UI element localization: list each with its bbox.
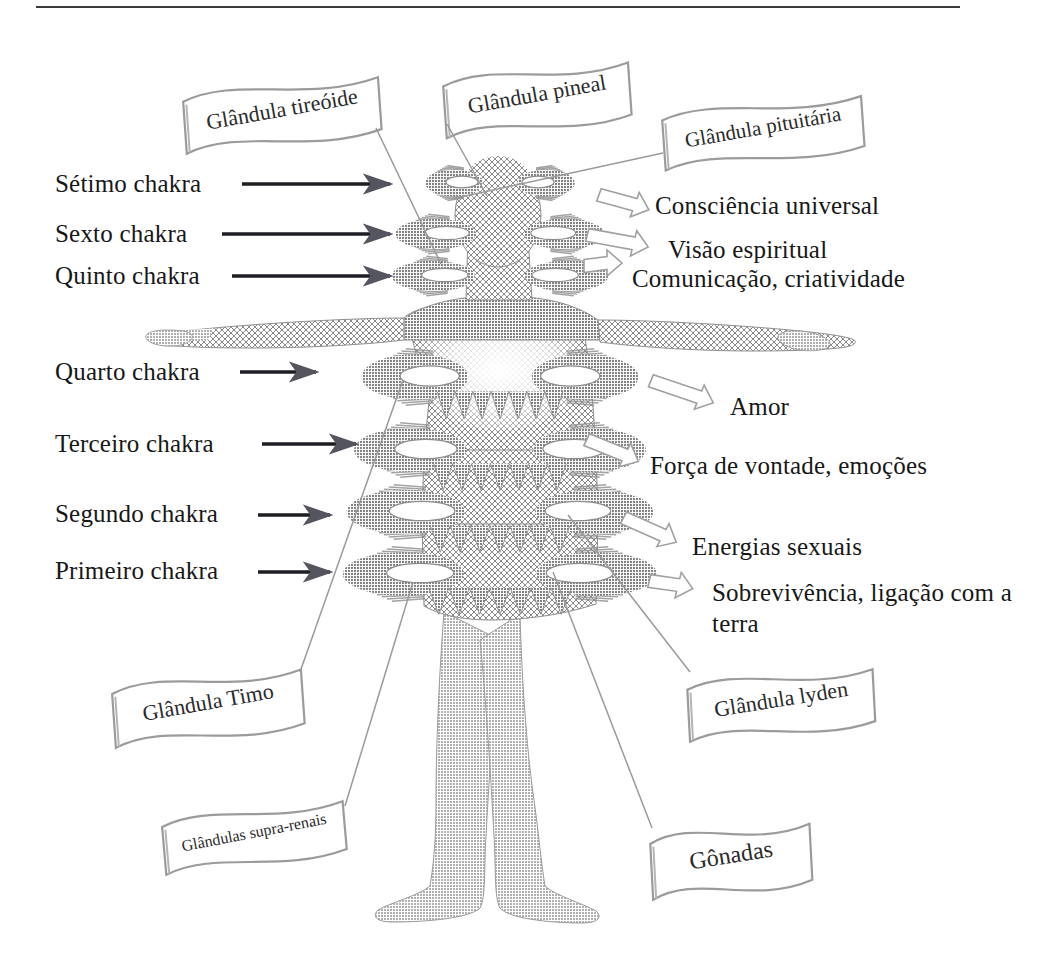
function-label-sobrevivencia: Sobrevivência, ligação com a terra xyxy=(712,578,1012,639)
chakra-label-quarto: Quarto chakra xyxy=(55,358,200,386)
banner-leader-line xyxy=(345,582,413,806)
banner-leader-line xyxy=(553,572,652,828)
function-label-comunicacao: Comunicação, criatividade xyxy=(632,265,905,293)
chakra-label-terceiro: Terceiro chakra xyxy=(55,430,214,458)
function-label-consciencia: Consciência universal xyxy=(655,192,879,220)
function-label-amor: Amor xyxy=(730,393,789,421)
function-label-forca: Força de vontade, emoções xyxy=(650,452,927,480)
chakra-label-setimo: Sétimo chakra xyxy=(55,170,201,198)
gland-banner xyxy=(161,801,347,875)
gland-banner xyxy=(650,824,813,900)
chakra-label-quinto: Quinto chakra xyxy=(55,262,200,290)
gland-banner xyxy=(111,669,305,747)
chakra-diagram-artwork xyxy=(0,0,1061,964)
function-arrow-icon xyxy=(647,366,718,415)
function-arrow-icon xyxy=(596,180,654,222)
gland-banner xyxy=(661,96,865,170)
chakra-label-segundo: Segundo chakra xyxy=(55,500,218,528)
diagram-canvas: Sétimo chakraSexto chakraQuinto chakraQu… xyxy=(0,0,1061,964)
gland-banner xyxy=(442,63,632,139)
gland-banner xyxy=(687,669,876,742)
function-label-visao: Visão espiritual xyxy=(668,236,827,264)
chakra-label-primeiro: Primeiro chakra xyxy=(55,557,218,585)
gland-banner xyxy=(182,77,382,153)
chakra-label-sexto: Sexto chakra xyxy=(55,220,187,248)
function-label-energias: Energias sexuais xyxy=(692,533,862,561)
